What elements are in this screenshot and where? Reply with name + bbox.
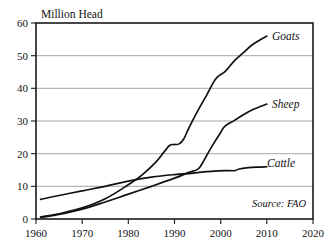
x-tick-label-1970: 1970 (71, 227, 94, 239)
x-tick-label-2020: 2020 (302, 227, 325, 239)
x-tick-label-1960: 1960 (25, 227, 48, 239)
series-label-sheep: Sheep (272, 98, 300, 111)
y-tick-label-10: 10 (17, 180, 29, 192)
y-axis-title: Million Head (41, 8, 103, 20)
source-note: Source: FAO (252, 198, 306, 209)
y-tick-label-40: 40 (17, 82, 29, 94)
x-tick-label-1990: 1990 (164, 227, 187, 239)
series-label-cattle: Cattle (267, 157, 295, 169)
line-chart: 60 50 40 30 20 10 0 1960 1970 1980 1990 … (0, 0, 332, 251)
y-tick-label-30: 30 (17, 115, 29, 127)
x-tick-label-2010: 2010 (256, 227, 279, 239)
chart-container: 60 50 40 30 20 10 0 1960 1970 1980 1990 … (0, 0, 332, 251)
x-tick-label-1980: 1980 (117, 227, 140, 239)
x-tick-label-2000: 2000 (210, 227, 233, 239)
y-tick-label-60: 60 (17, 17, 29, 29)
y-tick-label-0: 0 (23, 213, 29, 225)
y-tick-label-20: 20 (17, 148, 29, 160)
series-label-goats: Goats (272, 30, 300, 42)
y-tick-label-50: 50 (17, 50, 29, 62)
